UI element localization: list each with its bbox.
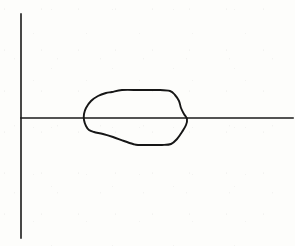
paper-background [0,0,295,246]
hand-drawn-figure [0,0,295,246]
figure-canvas [0,0,295,246]
